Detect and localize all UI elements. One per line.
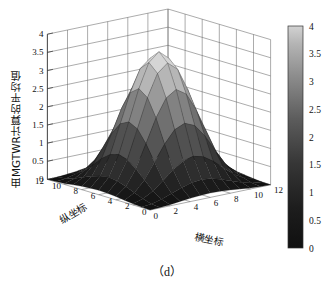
- svg-text:4: 4: [39, 29, 44, 39]
- svg-text:2.5: 2.5: [32, 84, 44, 94]
- svg-text:4: 4: [194, 202, 199, 212]
- svg-text:12: 12: [35, 176, 44, 186]
- svg-text:10: 10: [254, 190, 264, 200]
- svg-text:4: 4: [309, 22, 314, 32]
- colorbar: [288, 26, 303, 248]
- z-axis-label: 由MGTWR计算的平均值: [9, 48, 23, 188]
- svg-text:6: 6: [214, 198, 219, 208]
- svg-text:1: 1: [39, 138, 44, 148]
- svg-text:12: 12: [274, 185, 283, 195]
- svg-text:4: 4: [108, 196, 113, 206]
- svg-text:0: 0: [142, 207, 147, 217]
- svg-text:2.5: 2.5: [309, 105, 321, 115]
- svg-text:3: 3: [309, 77, 314, 87]
- svg-text:10: 10: [52, 181, 62, 191]
- svg-text:3.5: 3.5: [32, 47, 44, 57]
- colorbar-gradient: [288, 26, 303, 248]
- colorbar-tick-labels: 00.511.522.533.54: [309, 22, 321, 254]
- svg-text:1.5: 1.5: [32, 120, 44, 130]
- svg-text:2: 2: [309, 133, 314, 143]
- surface-mesh: [47, 52, 270, 210]
- svg-text:8: 8: [74, 186, 79, 196]
- svg-text:2: 2: [39, 102, 44, 112]
- svg-text:0: 0: [154, 211, 159, 221]
- svg-text:2: 2: [174, 206, 179, 216]
- svg-text:0.5: 0.5: [32, 156, 44, 166]
- svg-text:1: 1: [309, 188, 314, 198]
- surface-plot-figure: 00.511.522.533.54121086420024681012 00.5…: [0, 0, 334, 298]
- svg-text:8: 8: [234, 194, 239, 204]
- svg-text:0.5: 0.5: [309, 216, 321, 226]
- figure-caption: （d）: [0, 262, 334, 280]
- svg-text:1.5: 1.5: [309, 160, 321, 170]
- svg-text:6: 6: [91, 191, 96, 201]
- svg-text:3.5: 3.5: [309, 49, 321, 59]
- svg-text:2: 2: [125, 201, 130, 211]
- plot-canvas: 00.511.522.533.54121086420024681012 00.5…: [0, 0, 334, 298]
- svg-text:3: 3: [39, 66, 44, 76]
- svg-text:0: 0: [309, 244, 314, 254]
